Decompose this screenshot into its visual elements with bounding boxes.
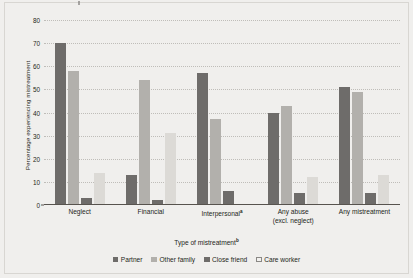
bar-group-neglect [44, 20, 115, 205]
legend-item-partner[interactable]: Partner [113, 256, 143, 263]
plot-area: 01020304050607080 [44, 20, 400, 205]
bar-neglect-care-worker [94, 173, 105, 205]
category-label-line1: Financial [138, 208, 164, 215]
bar-financial-care-worker [165, 133, 176, 205]
legend-label: Care worker [264, 256, 300, 263]
x-axis-category-label: Financial [115, 208, 186, 225]
legend-item-close-friend[interactable]: Close friend [204, 256, 247, 263]
y-axis-title: Percentage experiencing mistreatment [24, 26, 31, 206]
bar-financial-other-family [139, 80, 150, 205]
x-axis-title-superscript: b [236, 238, 239, 243]
y-axis-tick-label: 50 [33, 86, 40, 93]
bar-group-interpersonal [186, 20, 257, 205]
bar-any-mistreatment-care-worker [378, 175, 389, 205]
x-axis-category-label: Neglect [44, 208, 115, 225]
legend-swatch-icon [151, 257, 157, 263]
x-axis-category-label: Any mistreatment [329, 208, 400, 225]
bar-any-abuse-excl-neglect-other-family [281, 106, 292, 205]
chart-legend: PartnerOther familyClose friendCare work… [0, 256, 413, 263]
scan-artifact [78, 1, 80, 5]
legend-label: Other family [159, 256, 195, 263]
bar-group-any-abuse-excl-neglect [258, 20, 329, 205]
bar-group-financial [115, 20, 186, 205]
category-label-line2: (excl. neglect) [258, 217, 329, 226]
bar-any-abuse-excl-neglect-care-worker [307, 177, 318, 205]
bar-any-abuse-excl-neglect-partner [268, 113, 279, 206]
y-axis-tick-label: 10 [33, 178, 40, 185]
bar-neglect-other-family [68, 71, 79, 205]
category-label-line1: Interpersonal [201, 210, 240, 217]
bar-interpersonal-close-friend [223, 191, 234, 205]
bar-financial-partner [126, 175, 137, 205]
y-axis-tick-label: 70 [33, 40, 40, 47]
x-axis-line [44, 204, 400, 205]
bar-interpersonal-other-family [210, 119, 221, 205]
bar-interpersonal-partner [197, 73, 208, 205]
x-axis-category-label: Any abuse(excl. neglect) [258, 208, 329, 225]
y-axis-tick-mark [41, 205, 44, 206]
y-axis-tick-label: 30 [33, 132, 40, 139]
bar-any-mistreatment-partner [339, 87, 350, 205]
legend-item-other-family[interactable]: Other family [151, 256, 195, 263]
chart-figure: Percentage experiencing mistreatment 010… [0, 0, 413, 278]
legend-label: Partner [121, 256, 143, 263]
y-axis-tick-label: 60 [33, 63, 40, 70]
category-label-line1: Any mistreatment [339, 208, 390, 215]
bar-any-mistreatment-other-family [352, 92, 363, 205]
legend-swatch-icon [204, 257, 210, 263]
x-axis-category-label: Interpersonala [186, 208, 257, 225]
bars-layer [44, 20, 400, 205]
x-axis-category-labels: NeglectFinancialInterpersonalaAny abuse(… [44, 208, 400, 225]
x-axis-title-text: Type of mistreatment [174, 239, 236, 246]
legend-label: Close friend [212, 256, 247, 263]
legend-swatch-icon [113, 257, 119, 263]
y-axis-tick-label: 0 [36, 202, 40, 209]
category-label-line1: Neglect [68, 208, 90, 215]
legend-item-care-worker[interactable]: Care worker [256, 256, 300, 263]
y-axis-tick-label: 20 [33, 155, 40, 162]
bar-group-any-mistreatment [329, 20, 400, 205]
y-axis-tick-label: 80 [33, 17, 40, 24]
category-label-superscript: a [240, 209, 243, 214]
legend-swatch-icon [256, 257, 262, 263]
category-label-line1: Any abuse [278, 208, 309, 215]
y-axis-tick-label: 40 [33, 109, 40, 116]
x-axis-title: Type of mistreatmentb [0, 238, 413, 246]
bar-neglect-partner [55, 43, 66, 205]
